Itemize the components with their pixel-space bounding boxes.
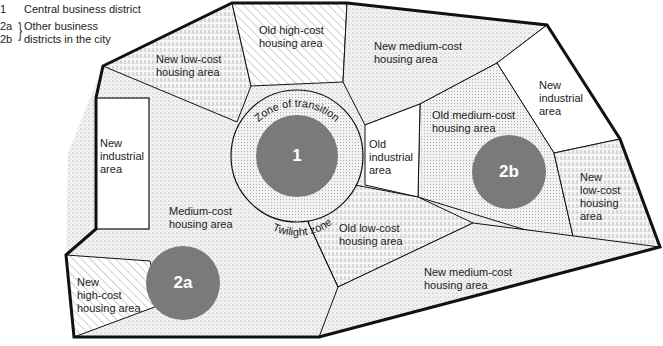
label-medium-cost: Medium-cost housing area xyxy=(169,205,235,230)
district-2b-label: 2b xyxy=(499,162,519,181)
label-new-low-cost-nw: New low-cost housing area xyxy=(156,53,224,78)
label-old-high-cost: Old high-cost housing area xyxy=(259,24,327,49)
cbd-number: 1 xyxy=(292,146,301,165)
district-2a-label: 2a xyxy=(174,273,193,292)
label-old-low-cost: Old low-cost housing area xyxy=(339,222,403,247)
city-land-use-diagram: 1 2a 2b Zone of transition Twilight zone… xyxy=(0,0,663,346)
